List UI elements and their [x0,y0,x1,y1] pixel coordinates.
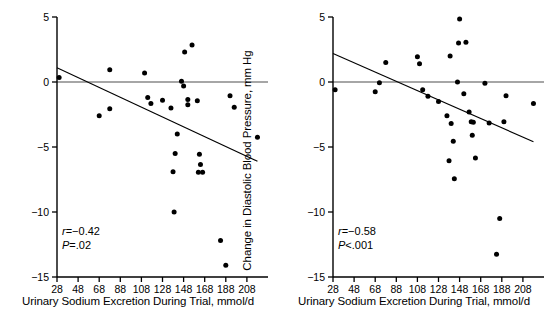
stats-annotation-diastolic: r=−0.58 P<.001 [338,224,376,252]
svg-text:128: 128 [430,283,448,295]
data-point [482,81,487,86]
x-ticks-systolic: 28486888108128148168188208 [51,277,256,295]
data-point [181,83,186,88]
data-point [473,156,478,161]
data-point [57,75,62,80]
figure-container: 50−5−10−15 28486888108128148168188208 Ch… [0,0,552,321]
data-point [531,101,536,106]
svg-text:48: 48 [348,283,360,295]
data-point [449,121,454,126]
svg-text:−15: −15 [307,271,325,283]
data-point [497,216,502,221]
data-point [160,98,165,103]
data-point [457,16,462,21]
data-point [504,93,509,98]
pvalue-diastolic: P<.001 [338,238,376,252]
svg-text:188: 188 [493,283,511,295]
y-ticks-diastolic: 50−5−10−15 [307,11,333,283]
data-point [452,176,457,181]
svg-text:−10: −10 [31,206,49,218]
x-axis-title-systolic: Urinary Sodium Excretion During Trial, m… [0,295,276,307]
data-point [451,139,456,144]
data-point [197,152,202,157]
data-points-diastolic [333,16,536,256]
data-point [185,97,190,102]
x-ticks-diastolic: 28486888108128148168188208 [327,277,532,295]
data-point [190,42,195,47]
svg-text:0: 0 [319,76,325,88]
x-axis-title-diastolic: Urinary Sodium Excretion During Trial, m… [276,295,552,307]
data-point [467,109,472,114]
svg-text:28: 28 [327,283,339,295]
data-point [228,93,233,98]
data-point [415,54,420,59]
svg-text:0: 0 [43,76,49,88]
svg-text:188: 188 [217,283,235,295]
data-point [97,113,102,118]
data-point [175,132,180,137]
data-point [456,41,461,46]
pvalue-systolic: P=.02 [62,238,100,252]
svg-text:208: 208 [514,283,532,295]
data-point [182,50,187,55]
data-point [218,238,223,243]
correlation-value-systolic: r=−0.42 [62,224,100,238]
data-point [107,67,112,72]
data-point [171,169,176,174]
data-point [487,120,492,125]
data-point [172,210,177,215]
svg-text:48: 48 [72,283,84,295]
panel-systolic: 50−5−10−15 28486888108128148168188208 Ch… [0,0,276,321]
correlation-value-diastolic: r=−0.58 [338,224,376,238]
data-point [383,60,388,65]
svg-text:88: 88 [114,283,126,295]
data-point [223,263,228,268]
data-point [333,87,338,92]
svg-text:−10: −10 [307,206,325,218]
data-point [198,162,203,167]
scatter-plot-systolic: 50−5−10−15 28486888108128148168188208 [0,0,276,321]
data-point [455,80,460,85]
data-point [168,106,173,111]
panel-diastolic: 50−5−10−15 28486888108128148168188208 Ch… [276,0,552,321]
data-point [448,54,453,59]
data-point [373,89,378,94]
regression-line-diastolic [333,53,533,141]
svg-text:148: 148 [175,283,193,295]
data-point [107,106,112,111]
y-axis-title-systolic: Change in Systolic Blood Pressure, mm Hg [0,0,18,321]
data-point [200,170,205,175]
svg-text:108: 108 [409,283,427,295]
data-point [470,133,475,138]
data-point [461,91,466,96]
svg-text:68: 68 [93,283,105,295]
svg-text:168: 168 [196,283,214,295]
svg-text:108: 108 [133,283,151,295]
data-point [501,119,506,124]
svg-text:168: 168 [472,283,490,295]
data-point [377,80,382,85]
svg-text:5: 5 [43,11,49,23]
stats-annotation-systolic: r=−0.42 P=.02 [62,224,100,252]
data-point [436,99,441,104]
svg-text:148: 148 [451,283,469,295]
svg-text:5: 5 [319,11,325,23]
svg-text:−15: −15 [31,271,49,283]
data-point [185,102,190,107]
data-point [471,120,476,125]
data-point [195,98,200,103]
svg-text:−5: −5 [313,141,325,153]
data-point [447,158,452,163]
data-point [463,40,468,45]
data-point [145,95,150,100]
y-axis-title-diastolic: Change in Diastolic Blood Pressure, mm H… [276,0,294,321]
data-point [142,70,147,75]
y-ticks-systolic: 50−5−10−15 [31,11,57,283]
data-point [179,79,184,84]
data-point [173,151,178,156]
scatter-plot-diastolic: 50−5−10−15 28486888108128148168188208 [276,0,552,321]
svg-text:−5: −5 [37,141,49,153]
data-point [148,101,153,106]
data-point [232,105,237,110]
svg-text:128: 128 [154,283,172,295]
